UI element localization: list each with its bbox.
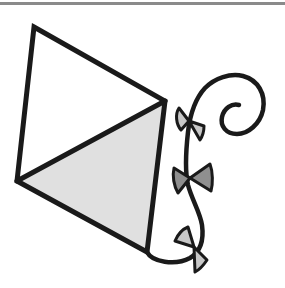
tail-bow-middle (173, 164, 212, 193)
bow-wing-right (189, 121, 204, 140)
bow-wing-right (190, 164, 212, 191)
kite-illustration (0, 0, 285, 288)
bow-wing-upper (175, 227, 194, 247)
bow-wing-lower (194, 247, 207, 272)
